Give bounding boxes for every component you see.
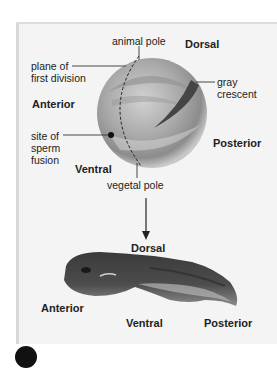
label-tadpole-dorsal: Dorsal bbox=[131, 242, 165, 254]
label-sperm-line2: sperm bbox=[31, 142, 60, 154]
egg-sphere bbox=[97, 56, 207, 168]
label-tadpole-posterior: Posterior bbox=[204, 317, 252, 329]
label-tadpole-anterior: Anterior bbox=[41, 302, 84, 314]
label-plane-line2: first division bbox=[31, 72, 86, 84]
label-vegetal-pole: vegetal pole bbox=[107, 179, 164, 191]
label-gray-line1: gray bbox=[217, 76, 237, 88]
down-arrow-icon bbox=[142, 198, 150, 240]
label-sperm-line1: site of bbox=[31, 130, 59, 142]
label-egg-dorsal: Dorsal bbox=[185, 38, 219, 50]
label-egg-ventral: Ventral bbox=[75, 163, 112, 175]
tadpole-image bbox=[64, 252, 237, 306]
label-sperm-line3: fusion bbox=[31, 154, 59, 166]
label-egg-anterior: Anterior bbox=[32, 98, 75, 110]
step-marker-circle bbox=[15, 346, 37, 368]
label-gray-line2: crescent bbox=[217, 88, 257, 100]
label-tadpole-ventral: Ventral bbox=[126, 317, 163, 329]
label-animal-pole: animal pole bbox=[112, 35, 166, 47]
label-egg-posterior: Posterior bbox=[213, 137, 261, 149]
label-plane-line1: plane of bbox=[31, 60, 68, 72]
